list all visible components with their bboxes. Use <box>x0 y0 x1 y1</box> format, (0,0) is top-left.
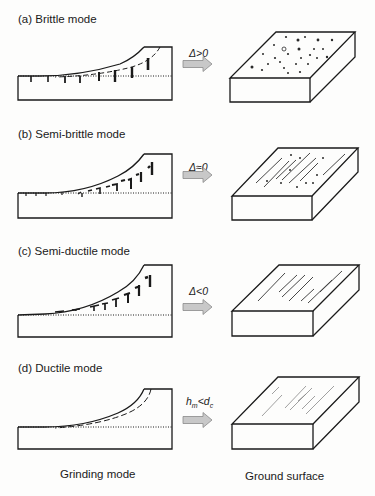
panel-a-cracks <box>31 58 148 83</box>
panel-a-workpiece <box>18 47 172 100</box>
panel-c-ground-block <box>232 265 359 336</box>
panel-c-arrow-icon <box>183 300 212 315</box>
panel-b-arrow-icon <box>183 168 212 183</box>
panel-a-surface-pits <box>251 36 334 74</box>
diagram-canvas <box>0 0 375 496</box>
panel-d-workpiece <box>18 389 172 449</box>
panel-b-cracks <box>26 162 152 197</box>
panel-c-cracks <box>55 275 150 312</box>
panel-d-arrow-icon <box>183 413 212 428</box>
panel-b-workpiece <box>18 154 172 218</box>
panel-a-arrow-icon <box>183 57 212 72</box>
panel-a-ground-block <box>230 32 355 102</box>
figure: (a) Brittle mode (b) Semi-brittle mode (… <box>0 0 375 496</box>
panel-d-surface-fine-scratches <box>262 386 334 416</box>
panel-b-ground-block <box>232 148 358 220</box>
panel-d-ground-block <box>232 377 359 449</box>
panel-c-surface-scratches <box>258 271 342 303</box>
